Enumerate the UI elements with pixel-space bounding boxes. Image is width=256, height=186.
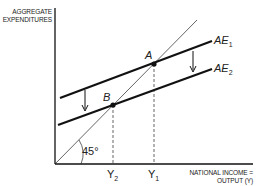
ae1-line xyxy=(60,41,212,98)
point-a-dot xyxy=(151,61,156,66)
ae2-label: AE2 xyxy=(214,62,233,76)
shift-arrow-right xyxy=(190,51,196,72)
ae2-line xyxy=(58,69,212,125)
shift-arrow-left xyxy=(82,90,88,111)
point-b-dot xyxy=(110,102,115,107)
y-axis-label-line1: AGGREGATE xyxy=(0,8,52,16)
y1-tick-label: Y1 xyxy=(148,168,159,182)
point-a-label: A xyxy=(145,49,152,61)
ae1-label: AE1 xyxy=(214,34,233,48)
x-axis-label: NATIONAL INCOME = OUTPUT (Y) xyxy=(186,169,253,185)
angle-label: 45° xyxy=(82,145,99,157)
y2-tick-label: Y2 xyxy=(107,168,118,182)
ae-diagram xyxy=(0,0,256,186)
point-b-label: B xyxy=(103,91,110,103)
y-axis-label-line2: EXPENDITURES xyxy=(0,16,52,24)
x-axis-label-line1: NATIONAL INCOME = xyxy=(186,169,253,177)
x-axis-label-line2: OUTPUT (Y) xyxy=(186,177,253,185)
y-axis-label: AGGREGATE EXPENDITURES xyxy=(0,8,52,24)
